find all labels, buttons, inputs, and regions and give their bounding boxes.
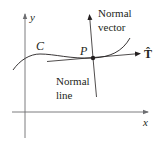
normal-line-label-line2: line — [56, 89, 73, 101]
normal-vector — [90, 15, 94, 58]
normal-vector-label-line2: vector — [98, 21, 126, 33]
curve-c — [13, 38, 130, 70]
x-axis-label: x — [142, 116, 148, 128]
tangent-vector-label: T̂ — [144, 47, 152, 61]
normal-vector-label-line1: Normal — [98, 7, 132, 19]
point-p-dot — [91, 56, 95, 60]
curve-label: C — [36, 39, 45, 53]
normal-line — [93, 58, 97, 97]
point-label: P — [79, 44, 88, 58]
y-axis-label: y — [29, 11, 35, 23]
normal-line-label-line1: Normal — [56, 75, 90, 87]
normal-line-diagram: y x C P T̂ Normal vector Normal line — [0, 0, 157, 145]
